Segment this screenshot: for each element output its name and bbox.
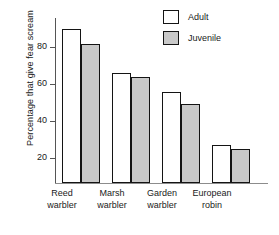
bar-adult	[62, 29, 81, 183]
y-axis-tick-label: 20	[37, 151, 47, 163]
bar-juvenile	[131, 77, 150, 183]
x-axis-line	[55, 183, 268, 184]
bar-chart-figure: Percentage that give fear scream 80 60 4…	[0, 0, 279, 235]
bar-juvenile	[81, 44, 100, 183]
legend-item-adult: Adult	[163, 10, 221, 24]
legend-swatch-white-square-icon	[163, 10, 179, 24]
y-axis-tick-label: 80	[37, 40, 47, 52]
bar-adult	[112, 73, 131, 183]
bar-juvenile	[231, 149, 250, 183]
plot-area: 80 60 40 20	[55, 18, 268, 183]
y-axis-title: Percentage that give fear scream	[25, 0, 35, 168]
y-axis-tick: 60	[50, 84, 55, 85]
bar-adult	[212, 145, 231, 183]
bar-adult	[162, 92, 181, 183]
bar-juvenile	[181, 104, 200, 183]
x-axis-category-line: European	[180, 188, 244, 200]
legend: Adult Juvenile	[163, 10, 221, 52]
x-axis-category-line: robin	[180, 200, 244, 212]
legend-swatch-gray-square-icon	[163, 31, 179, 45]
legend-label: Adult	[188, 12, 209, 22]
y-axis-tick: 40	[50, 121, 55, 122]
y-axis-tick-label: 60	[37, 77, 47, 89]
y-axis-tick-label: 40	[37, 114, 47, 126]
legend-item-juvenile: Juvenile	[163, 31, 221, 45]
y-axis-tick: 80	[50, 47, 55, 48]
y-axis-tick: 20	[50, 158, 55, 159]
y-axis-line	[55, 18, 56, 184]
x-axis-category-label: European robin	[180, 188, 244, 211]
legend-label: Juvenile	[188, 33, 221, 43]
